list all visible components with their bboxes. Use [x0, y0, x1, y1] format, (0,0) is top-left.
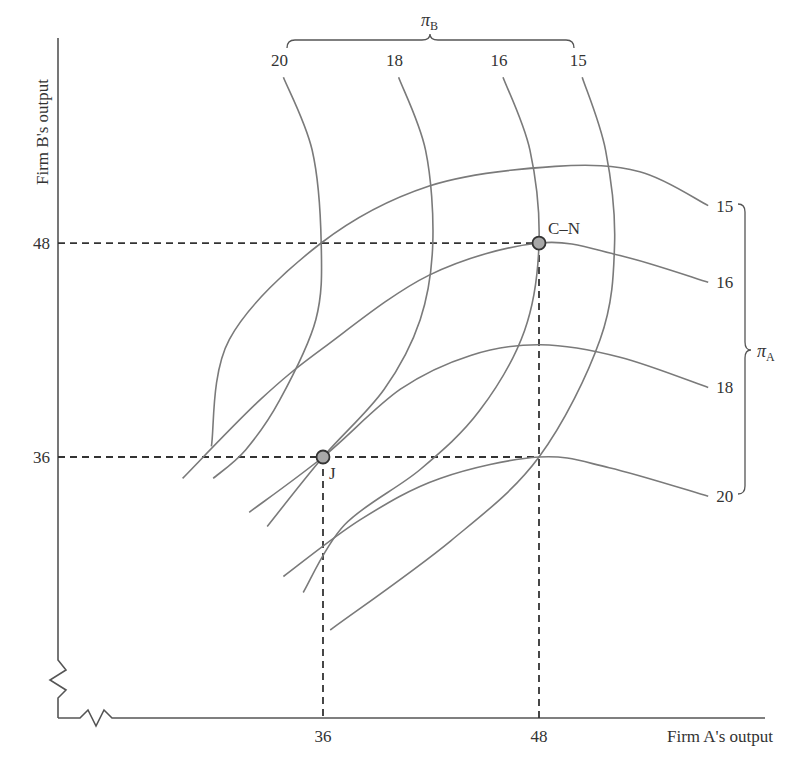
isoprofit-chart: Firm B's output Firm A's output 36 48 48… — [0, 0, 804, 769]
curve-label: 18 — [386, 51, 403, 70]
x-tick-label: 48 — [531, 727, 548, 746]
curve-label: 20 — [271, 51, 288, 70]
isoprofit-curve-firm-b-20 — [213, 77, 321, 478]
x-axis — [58, 710, 765, 726]
x-tick-label: 36 — [315, 727, 332, 746]
pi-b-label: πB — [421, 10, 438, 33]
curve-label: 16 — [716, 273, 733, 292]
y-axis — [50, 38, 66, 718]
curve-label: 15 — [570, 51, 587, 70]
point-label: C–N — [548, 219, 580, 238]
point-label: J — [329, 464, 336, 483]
pi-a-label: πA — [757, 341, 775, 364]
equilibrium-point-c-n — [533, 237, 546, 250]
isoprofit-curve-firm-b-18 — [267, 77, 433, 526]
curve-label: 18 — [716, 378, 733, 397]
y-tick-label: 48 — [33, 234, 50, 253]
curve-label: 15 — [716, 197, 733, 216]
curve-label: 20 — [716, 487, 733, 506]
isoprofit-curve-firm-b-15 — [330, 77, 615, 630]
equilibrium-point-j — [317, 451, 330, 464]
pi-b-brace — [287, 34, 574, 48]
x-axis-label: Firm A's output — [667, 727, 773, 746]
isoprofit-curve-firm-a-18 — [249, 345, 708, 513]
isoprofit-curve-firm-b-16 — [303, 77, 539, 592]
isoprofit-curve-firm-a-20 — [283, 457, 708, 577]
curve-label: 16 — [491, 51, 508, 70]
isoprofit-curve-firm-a-15 — [211, 165, 708, 446]
pi-a-brace — [738, 204, 751, 494]
y-axis-label: Firm B's output — [33, 79, 52, 185]
y-tick-label: 36 — [33, 448, 50, 467]
